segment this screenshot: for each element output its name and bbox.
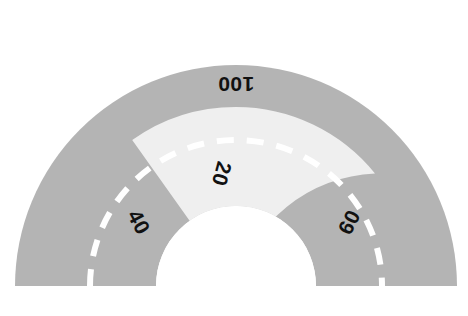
- gauge-svg: [0, 0, 468, 316]
- gauge-label-100-text: 100: [218, 74, 255, 95]
- gauge-baseline-mask: [0, 286, 468, 316]
- gauge-chart: 100 20 40 60: [0, 0, 468, 316]
- gauge-label-100: 100: [218, 74, 255, 95]
